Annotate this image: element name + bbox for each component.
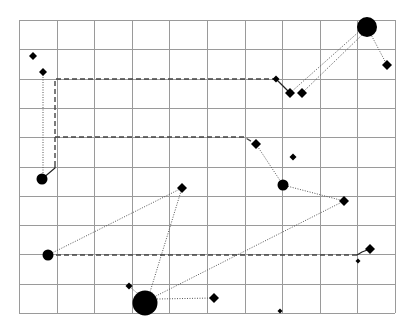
node-circle-c2 [43,250,54,261]
edge-dotted [150,188,182,292]
diagram-canvas [0,0,414,331]
node-diamond-d12 [339,196,349,206]
edge-dotted [290,29,362,93]
edge-dashed [55,137,256,144]
node-circle-c5 [278,180,289,191]
grid [19,20,396,314]
node-circle-c3 [133,291,158,316]
node-diamond-d15 [278,309,283,314]
edges [42,27,387,299]
node-diamond-d11 [290,154,297,161]
node-circle-c1 [37,174,48,185]
node-diamond-d9 [382,60,392,70]
edge-dashed [55,79,276,166]
node-diamond-d5 [209,293,219,303]
node-circle-c4 [357,17,377,37]
edge-dotted [157,298,214,299]
node-diamond-d14 [356,259,361,264]
node-diamond-d13 [365,244,375,254]
node-diamond-d8 [297,88,307,98]
edge-dotted [256,144,283,185]
nodes [29,17,392,316]
edge-dotted [302,33,364,93]
edge-dotted [152,201,344,298]
node-diamond-d3 [177,183,187,193]
node-diamond-d1 [29,52,37,60]
network-diagram [0,0,414,331]
edge-dotted [48,188,182,255]
node-diamond-d10 [251,139,261,149]
node-diamond-d2 [39,68,47,76]
edge-dotted [283,185,344,201]
